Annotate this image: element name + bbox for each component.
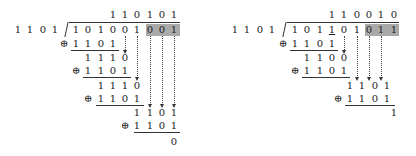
divisor-digit: 1 [267,24,277,36]
xor-symbol: ⊕ [290,65,300,77]
result-digit: 0 [327,52,337,64]
subtrahend-digit: 0 [327,65,337,77]
result-digit: 1 [382,80,392,92]
arrow-down-icon [379,77,383,81]
dividend-digit: 1 [376,24,386,36]
subtrahend-digit: 1 [382,93,392,105]
divisor-digit: 1 [242,24,252,36]
quotient-digit: 0 [389,9,399,21]
result-digit: 1 [345,80,355,92]
result-digit: 1 [315,52,325,64]
dividend-digit: 0 [364,24,374,36]
step-underline [302,77,350,78]
subtrahend-digit: 1 [339,65,349,77]
quotient-digit: 1 [339,9,349,21]
arrow-down-icon [355,77,359,81]
result-digit: 1 [302,52,312,64]
dividend-digit: 1 [352,24,362,36]
quotient-digit: 0 [352,9,362,21]
result-digit: 0 [370,80,380,92]
divisor-digit: 0 [255,24,265,36]
dividend-digit: 1 [290,24,300,36]
subtrahend-digit: 1 [302,38,312,50]
arrow-down-icon [342,50,346,54]
bring-down-line [369,36,370,78]
xor-symbol: ⊕ [278,38,288,50]
dividend-digit: 0 [339,24,349,36]
quotient-digit: 1 [327,9,337,21]
subtrahend-digit: 1 [357,93,367,105]
subtrahend-digit: 1 [290,38,300,50]
subtrahend-digit: 1 [345,93,355,105]
dividend-digit: 1 [315,24,325,36]
step-underline [345,105,395,106]
subtrahend-digit: 1 [315,65,325,77]
division-bracket [282,22,286,37]
quotient-digit: 1 [376,9,386,21]
subtrahend-digit: 0 [370,93,380,105]
remainder-digit: 1 [389,107,399,119]
xor-symbol: ⊕ [333,93,343,105]
step-underline [290,50,338,51]
dividend-digit: 1 [389,24,399,36]
subtrahend-digit: 0 [315,38,325,50]
quotient-digit: 0 [364,9,374,21]
subtrahend-digit: 1 [327,38,337,50]
bring-down-line [344,36,345,50]
subtrahend-digit: 1 [302,65,312,77]
divisor-digit: 1 [230,24,240,36]
dividend-digit-underlined: 1 [327,24,337,36]
result-digit: 1 [357,80,367,92]
right-division-diagram: 1 1 0 1 1 1 0 0 1 0 1 0 1 1 0 1 0 1 1 ⊕ … [0,0,208,156]
arrow-down-icon [367,77,371,81]
bring-down-line [357,36,358,78]
dividend-digit: 0 [302,24,312,36]
division-overline [287,22,399,23]
bring-down-line [381,36,382,78]
